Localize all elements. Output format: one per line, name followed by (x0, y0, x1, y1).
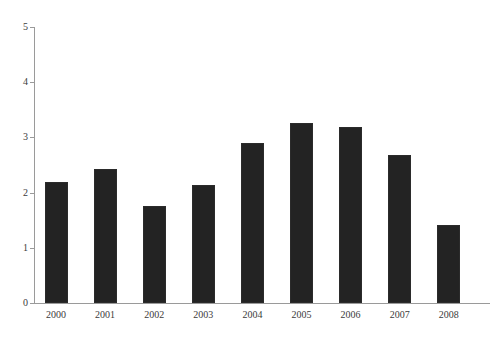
x-axis-tick-label: 2000 (46, 310, 66, 320)
x-axis-line (34, 303, 490, 304)
y-axis-tick (30, 82, 35, 83)
x-axis-tick-label: 2003 (193, 310, 213, 320)
bar[interactable] (192, 185, 215, 303)
y-axis-tick (30, 27, 35, 28)
x-axis-tick-label: 2004 (242, 310, 262, 320)
bar[interactable] (143, 206, 166, 303)
x-axis-tick-label: 2006 (341, 310, 361, 320)
y-axis-tick-label: 3 (23, 132, 28, 142)
bar[interactable] (94, 169, 117, 303)
bar[interactable] (388, 155, 411, 303)
plot-area (0, 0, 493, 303)
bar[interactable] (339, 127, 362, 303)
x-axis-tick-label: 2001 (95, 310, 115, 320)
y-axis-tick-label: 1 (23, 243, 28, 253)
bar-chart: 012345 200020012002200320042005200620072… (0, 0, 493, 338)
y-axis-tick-label: 0 (23, 298, 28, 308)
bar[interactable] (45, 182, 68, 303)
bar[interactable] (241, 143, 264, 303)
bar[interactable] (437, 225, 460, 303)
x-axis-tick-label: 2005 (292, 310, 312, 320)
y-axis-tick-label: 4 (23, 77, 28, 87)
y-axis-tick (30, 193, 35, 194)
y-axis-tick (30, 248, 35, 249)
x-axis-tick-label: 2008 (439, 310, 459, 320)
y-axis-tick (30, 137, 35, 138)
y-axis-line (34, 27, 35, 304)
x-axis-tick-label: 2007 (390, 310, 410, 320)
bar[interactable] (290, 123, 313, 303)
y-axis-tick-label: 2 (23, 188, 28, 198)
x-axis-tick-label: 2002 (144, 310, 164, 320)
y-axis-tick-label: 5 (23, 22, 28, 32)
